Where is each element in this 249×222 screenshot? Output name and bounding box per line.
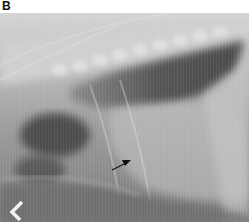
- radiograph-image: [0, 13, 249, 222]
- figure-panel: B: [0, 0, 249, 222]
- panel-label: B: [2, 0, 11, 12]
